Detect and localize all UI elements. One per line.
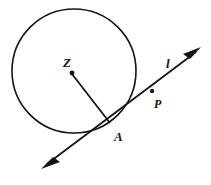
label-point-p: P [154,97,162,111]
center-point-z-dot [70,71,75,76]
point-p-dot [150,89,154,93]
diagram-canvas: Z A P l [0,0,211,185]
diagram-background [0,0,211,185]
label-tangency-point-a: A [113,129,123,144]
label-center-z: Z [62,55,71,70]
label-line-l: l [166,56,170,71]
